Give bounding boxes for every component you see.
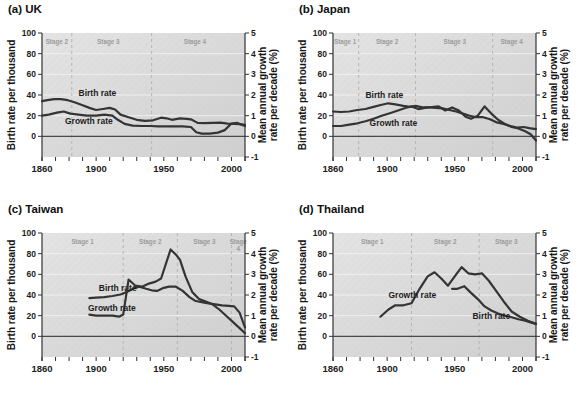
x-tick-label: 2000 (221, 363, 242, 374)
right-tick-label: 1 (251, 111, 256, 121)
left-tick-label: 100 (313, 228, 327, 238)
x-tick-label: 1860 (31, 363, 52, 374)
left-tick-label: 0 (31, 331, 36, 341)
right-axis-label: Mean annual growth rate per decade (%) (257, 247, 279, 344)
panel-title-taiwan: (c) Taiwan (8, 203, 63, 215)
left-tick-label: 80 (318, 49, 328, 59)
chart-taiwan: Stage 1Stage 2Stage 3Stage4Birth rateGro… (0, 200, 291, 403)
left-tick-label: 0 (322, 131, 327, 141)
right-axis-label: Mean annual growth rate per decade (%) (548, 47, 570, 144)
x-tick-label: 1950 (444, 363, 465, 374)
right-axis-label-line1: Mean annual growth (257, 47, 268, 144)
stage-label: Stage 4 (500, 38, 523, 46)
right-tick-label: 4 (542, 249, 547, 259)
x-tick-label: 1860 (322, 363, 343, 374)
right-tick-label: -1 (542, 152, 550, 162)
left-tick-label: 20 (27, 311, 37, 321)
left-tick-label: 100 (22, 28, 36, 38)
left-tick-label: 60 (318, 69, 328, 79)
right-tick-label: 0 (542, 331, 547, 341)
left-tick-label: 100 (22, 228, 36, 238)
right-tick-label: 5 (251, 228, 256, 238)
right-tick-label: 5 (542, 28, 547, 38)
panel-title-japan: (b) Japan (299, 3, 350, 15)
left-tick-label: 40 (27, 90, 37, 100)
series-label-growth-rate: Growth rate (370, 118, 418, 128)
right-axis-label-line2: rate per decade (%) (559, 247, 570, 344)
panel-japan: (b) Japan Birth rate per thousand Mean a… (291, 0, 582, 200)
right-axis-label: Mean annual growth rate per decade (%) (257, 47, 279, 144)
x-tick-label: 1950 (153, 163, 174, 174)
right-tick-label: -1 (542, 352, 550, 362)
x-tick-label: 2000 (512, 163, 533, 174)
right-tick-label: 1 (251, 311, 256, 321)
chart-uk: Stage 2Stage 3Stage 4Birth rateGrowth ra… (0, 0, 291, 200)
panel-title-uk: (a) UK (8, 3, 42, 15)
series-label-growth-rate: Growth rate (388, 290, 436, 300)
right-tick-label: 0 (542, 131, 547, 141)
panel-title-thailand: (d) Thailand (299, 203, 364, 215)
right-tick-label: 0 (251, 331, 256, 341)
left-tick-label: 100 (313, 28, 327, 38)
stage-label: Stage 1 (334, 38, 357, 46)
right-tick-label: 4 (251, 249, 256, 259)
left-axis-label: Birth rate per thousand (297, 40, 308, 151)
right-tick-label: 4 (542, 49, 547, 59)
left-tick-label: 80 (27, 249, 37, 259)
series-label-birth-rate: Birth rate (472, 311, 510, 321)
stage-label: 4 (236, 245, 240, 252)
stage-label: Stage 2 (376, 38, 399, 46)
right-axis-label: Mean annual growth rate per decade (%) (548, 247, 570, 344)
series-label-growth-rate: Growth rate (65, 116, 113, 126)
right-tick-label: 2 (251, 90, 256, 100)
x-tick-label: 2000 (221, 163, 242, 174)
left-tick-label: 0 (322, 331, 327, 341)
x-tick-label: 1900 (86, 363, 107, 374)
panel-uk: (a) UK Birth rate per thousand Mean annu… (0, 0, 291, 200)
right-axis-label-line1: Mean annual growth (257, 247, 268, 344)
left-tick-label: 40 (318, 90, 328, 100)
right-tick-label: 1 (542, 111, 547, 121)
left-axis-label: Birth rate per thousand (297, 240, 308, 351)
left-tick-label: 60 (27, 269, 37, 279)
right-tick-label: 1 (542, 311, 547, 321)
demographic-transition-figure: (a) UK Birth rate per thousand Mean annu… (0, 0, 582, 403)
right-axis-label-line2: rate per decade (%) (268, 247, 279, 344)
stage-label: Stage 3 (97, 38, 120, 46)
left-tick-label: 40 (318, 290, 328, 300)
chart-japan: Stage 1Stage 2Stage 3Stage 4Birth rateGr… (291, 0, 582, 200)
right-tick-label: 4 (251, 49, 256, 59)
right-tick-label: 2 (542, 290, 547, 300)
chart-thailand: Stage 1Stage 2Stage 3Growth rateBirth ra… (291, 200, 582, 403)
left-tick-label: 80 (318, 249, 328, 259)
stage-label: Stage 3 (444, 38, 467, 46)
left-tick-label: 20 (318, 111, 328, 121)
right-axis-label-line1: Mean annual growth (548, 47, 559, 144)
right-axis-label-line2: rate per decade (%) (268, 47, 279, 144)
x-tick-label: 1900 (377, 163, 398, 174)
stage-label: Stage 4 (184, 38, 207, 46)
left-tick-label: 80 (27, 49, 37, 59)
x-tick-label: 2000 (512, 363, 533, 374)
x-tick-label: 1860 (322, 163, 343, 174)
series-label-birth-rate: Birth rate (79, 88, 117, 98)
right-tick-label: 3 (542, 269, 547, 279)
left-axis-label: Birth rate per thousand (6, 40, 17, 151)
panel-taiwan: (c) Taiwan Birth rate per thousand Mean … (0, 200, 291, 403)
left-tick-label: 60 (318, 269, 328, 279)
stage-label: Stage 3 (495, 238, 518, 246)
right-tick-label: 5 (542, 228, 547, 238)
x-tick-label: 1860 (31, 163, 52, 174)
left-tick-label: 40 (27, 290, 37, 300)
right-tick-label: 2 (251, 290, 256, 300)
right-tick-label: 3 (251, 69, 256, 79)
series-label-birth-rate: Birth rate (365, 90, 403, 100)
right-tick-label: 3 (542, 69, 547, 79)
right-axis-label-line1: Mean annual growth (548, 247, 559, 344)
series-label-birth-rate: Birth rate (99, 283, 137, 293)
left-tick-label: 20 (27, 111, 37, 121)
right-tick-label: -1 (251, 352, 259, 362)
stage-label: Stage 3 (193, 238, 216, 246)
left-tick-label: 20 (318, 311, 328, 321)
panel-thailand: (d) Thailand Birth rate per thousand Mea… (291, 200, 582, 403)
